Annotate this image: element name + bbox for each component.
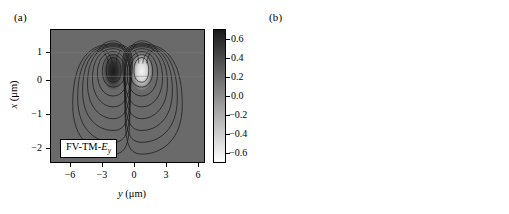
panel-a-cbar-tick-1 [226,58,230,59]
panel-a-mode-prefix: FV-TM- [66,141,101,152]
panel-a-cbar-label-2: 0.2 [231,72,244,82]
panel-a-mode-subscript: y [108,146,111,155]
panel-a-cbar-label-5: −0.4 [229,129,247,139]
panel-a-cbar-label-0: 0.6 [231,34,244,44]
panel-a-y-axis-title: x (μm) [8,70,19,120]
panel-b: (b) [255,0,509,214]
panel-a-xticklabel-0: 0 [122,170,146,180]
panel-a-yticklabel-0: 0 [22,75,42,85]
panel-a-xtick-0 [134,163,135,167]
panel-a-xticklabel-m3: −3 [90,170,114,180]
panel-a-letter: (a) [14,11,27,23]
panel-b-letter: (b) [269,11,282,23]
panel-a-x-axis-unit: (μm) [125,188,146,199]
panel-a-colorbar [213,29,226,163]
panel-a-y-axis-unit: (μm) [8,80,19,101]
panel-a: (a) [0,0,254,214]
panel-a-xtick-m3 [102,163,103,167]
panel-a-yticklabel-1: 1 [22,47,42,57]
panel-a-cbar-tick-3 [226,96,230,97]
panel-a-xtick-6 [198,163,199,167]
panel-a-xticklabel-m6: −6 [58,170,82,180]
panel-a-yticklabel-m1: −1 [22,109,42,119]
panel-a-cbar-label-3: 0.0 [231,91,244,101]
panel-a-cbar-label-6: −0.6 [229,148,247,158]
panel-a-ytick-0 [46,80,50,81]
panel-a-x-axis-symbol: y [118,188,123,199]
panel-a-cbar-tick-0 [226,39,230,40]
panel-a-ytick-m1 [46,114,50,115]
panel-a-ytick-m2 [46,148,50,149]
panel-a-xticklabel-3: 3 [154,170,178,180]
panel-a-mode-label: FV-TM-Ey [60,139,117,158]
panel-a-cbar-label-4: −0.2 [229,110,247,120]
panel-a-ytick-1 [46,52,50,53]
panel-a-yticklabel-m2: −2 [22,143,42,153]
panel-a-xticklabel-6: 6 [186,170,210,180]
panel-a-cbar-tick-2 [226,77,230,78]
panel-a-colorbar-gradient [214,30,225,162]
panel-a-y-axis-symbol: x [8,104,19,109]
panel-a-cbar-label-1: 0.4 [231,53,244,63]
panel-a-xtick-3 [166,163,167,167]
panel-a-x-axis-title: y (μm) [102,188,162,199]
panel-a-xtick-m6 [70,163,71,167]
